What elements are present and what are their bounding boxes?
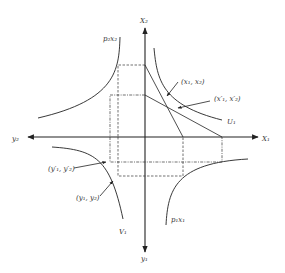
axes (28, 28, 258, 252)
v1-label: V₁ (119, 228, 127, 236)
diagram-canvas: X₂ X₁ y₂ y₁ p₂x₂ p₁x₁ U₁ V₁ (x₁, x₂) (x′… (0, 0, 285, 273)
point-x-prime-label: (x′₁, x′₂) (214, 95, 241, 103)
point-y-label: (y₁, y₂) (76, 194, 100, 202)
y1-axis-label: y₁ (140, 255, 148, 263)
p1x1-label: p₁x₁ (171, 216, 185, 224)
point-y-prime-label: (y′₁, y′₂) (48, 165, 75, 173)
y2-axis-label: y₂ (11, 135, 19, 143)
projection-lines (110, 65, 222, 176)
u1-label: U₁ (227, 118, 236, 126)
v1-curve (52, 147, 123, 219)
p2x2-curve (38, 37, 120, 118)
point-x-label: (x₁, x₂) (181, 78, 205, 86)
point-y-arrow (100, 181, 113, 196)
x2-axis-label: X₂ (139, 17, 148, 25)
p2x2-label: p₂x₂ (103, 35, 117, 43)
point-y-prime-arrow (74, 162, 106, 168)
budget-line-flat (145, 95, 222, 137)
point-x-arrow (167, 82, 178, 96)
x1-axis-label: X₁ (261, 135, 270, 143)
